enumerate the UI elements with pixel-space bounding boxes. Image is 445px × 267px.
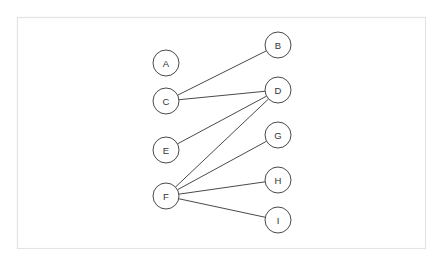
node-label-h: H <box>275 175 282 186</box>
node-label-c: C <box>163 96 170 107</box>
node-i[interactable]: I <box>265 207 291 233</box>
node-label-i: I <box>277 215 280 226</box>
node-e[interactable]: E <box>153 137 179 163</box>
diagram-frame <box>18 18 426 249</box>
node-b[interactable]: B <box>265 32 291 58</box>
node-g[interactable]: G <box>265 122 291 148</box>
node-a[interactable]: A <box>153 50 179 76</box>
node-label-f: F <box>163 191 169 202</box>
node-label-d: D <box>275 85 282 96</box>
node-label-a: A <box>163 58 170 69</box>
node-label-g: G <box>274 130 281 141</box>
node-d[interactable]: D <box>265 77 291 103</box>
node-h[interactable]: H <box>265 167 291 193</box>
node-c[interactable]: C <box>153 88 179 114</box>
node-label-b: B <box>275 40 281 51</box>
graph-diagram: ABCDEGFHI <box>0 0 445 267</box>
node-label-e: E <box>163 145 169 156</box>
node-f[interactable]: F <box>153 183 179 209</box>
